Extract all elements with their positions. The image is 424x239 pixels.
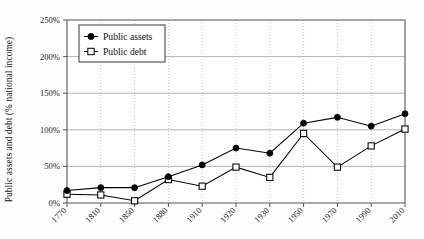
x-tick-label: 1850 xyxy=(117,205,136,224)
data-point-open-square xyxy=(334,164,340,170)
data-point-open-square xyxy=(267,174,273,180)
x-tick-label: 1920 xyxy=(218,205,237,224)
data-point-filled-circle xyxy=(267,150,273,156)
x-tick-label: 1910 xyxy=(184,205,203,224)
y-axis-tick-labels: 0%50%100%150%200%250% xyxy=(40,15,60,208)
data-point-filled-circle xyxy=(64,188,70,194)
x-tick-label: 1810 xyxy=(83,205,102,224)
y-tick-label: 0% xyxy=(49,198,60,208)
y-tick-label: 250% xyxy=(40,15,60,25)
filled-circle-icon xyxy=(88,33,94,39)
data-point-filled-circle xyxy=(233,145,239,151)
data-point-open-square xyxy=(301,130,307,136)
line-chart-plot: 0%50%100%150%200%250% 177018101850188019… xyxy=(0,0,424,239)
data-point-filled-circle xyxy=(402,111,408,117)
x-tick-label: 1930 xyxy=(252,205,271,224)
data-point-filled-circle xyxy=(132,185,138,191)
y-axis-ticks xyxy=(63,20,67,203)
data-point-filled-circle xyxy=(165,174,171,180)
x-axis-ticks xyxy=(67,203,405,207)
data-point-filled-circle xyxy=(334,114,340,120)
y-tick-label: 150% xyxy=(40,88,60,98)
legend-label-public-assets: Public assets xyxy=(103,31,153,42)
y-tick-label: 100% xyxy=(40,125,60,135)
x-axis-tick-labels: 1770181018501880191019201930195019701990… xyxy=(49,205,406,224)
data-point-filled-circle xyxy=(301,120,307,126)
data-point-filled-circle xyxy=(368,123,374,129)
x-tick-label: 1880 xyxy=(151,205,170,224)
data-point-open-square xyxy=(199,183,205,189)
data-point-filled-circle xyxy=(199,162,205,168)
chart-legend: Public assets Public debt xyxy=(79,25,165,62)
x-tick-label: 1770 xyxy=(49,205,68,224)
y-tick-label: 50% xyxy=(44,161,60,171)
data-point-open-square xyxy=(98,192,104,198)
data-point-open-square xyxy=(132,198,138,204)
y-tick-label: 200% xyxy=(40,52,60,62)
x-tick-label: 2010 xyxy=(387,205,406,224)
data-point-open-square xyxy=(233,164,239,170)
x-tick-label: 1990 xyxy=(353,205,372,224)
data-point-open-square xyxy=(368,143,374,149)
open-square-icon xyxy=(88,48,94,54)
legend-label-public-debt: Public debt xyxy=(103,46,147,57)
x-tick-label: 1970 xyxy=(320,205,339,224)
chart-figure: Public assets and debt (% national incom… xyxy=(0,0,424,239)
data-point-open-square xyxy=(402,126,408,132)
data-point-filled-circle xyxy=(98,185,104,191)
x-tick-label: 1950 xyxy=(286,205,305,224)
